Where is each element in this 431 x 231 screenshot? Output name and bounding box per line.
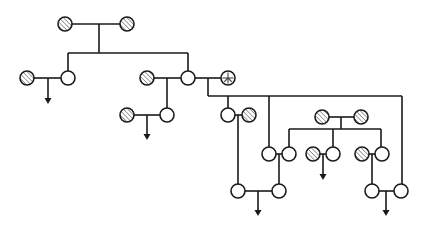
descent-arrow-icon <box>144 115 151 140</box>
pedigree-node-open-icon <box>221 108 235 122</box>
pedigree-node-open-icon <box>282 147 296 161</box>
pedigree-node-hatched-icon <box>58 17 72 31</box>
pedigree-node-open-icon <box>262 147 276 161</box>
pedigree-node-open-icon <box>181 71 195 85</box>
pedigree-node-hatched-icon <box>315 110 329 124</box>
descent-arrow-icon <box>383 191 390 216</box>
pedigree-node-open-icon <box>365 184 379 198</box>
pedigree-node-hatched-icon <box>354 110 368 124</box>
descent-arrow-icon <box>45 78 52 104</box>
pedigree-node-hatched-icon <box>306 147 320 161</box>
pedigree-node-open-icon <box>375 147 389 161</box>
connector-lines <box>34 24 402 191</box>
pedigree-node-open-icon <box>326 147 340 161</box>
descent-arrow-icon <box>320 154 327 180</box>
pedigree-node-open-icon <box>160 108 174 122</box>
pedigree-node-hatched-icon <box>140 71 154 85</box>
descent-arrow-icon <box>255 191 262 216</box>
pedigree-node-open-icon <box>394 184 408 198</box>
pedigree-diagram <box>0 0 431 231</box>
pedigree-node-open-icon <box>61 71 75 85</box>
pedigree-node-hatched-icon <box>20 71 34 85</box>
pedigree-node-hatched-icon <box>120 108 134 122</box>
pedigree-node-hatched-icon <box>242 108 256 122</box>
pedigree-node-hatched-icon <box>355 147 369 161</box>
pedigree-node-open-icon <box>231 184 245 198</box>
pedigree-node-peace-icon <box>221 71 235 85</box>
descent-arrows <box>45 78 390 216</box>
pedigree-node-open-icon <box>272 184 286 198</box>
pedigree-node-hatched-icon <box>120 17 134 31</box>
pedigree-nodes <box>20 17 408 198</box>
